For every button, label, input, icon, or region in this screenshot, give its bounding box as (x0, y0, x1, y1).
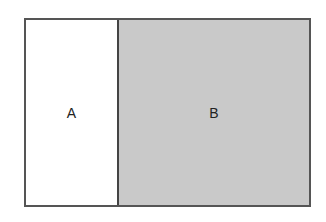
region-a-label: A (67, 105, 76, 121)
region-b-label: B (209, 105, 218, 121)
region-b: B (119, 20, 309, 205)
region-a: A (26, 20, 119, 205)
diagram-frame: A B (24, 18, 311, 207)
